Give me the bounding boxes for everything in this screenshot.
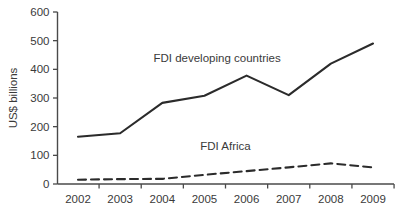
y-tick-label: 0 xyxy=(43,178,49,190)
x-tick-label: 2009 xyxy=(360,193,386,205)
y-tick-label: 300 xyxy=(30,92,49,104)
x-tick-label: 2002 xyxy=(65,193,91,205)
y-tick-label: 500 xyxy=(30,35,49,47)
x-tick-label: 2003 xyxy=(107,193,133,205)
y-tick-label: 600 xyxy=(30,6,49,18)
x-tick-label: 2004 xyxy=(149,193,175,205)
x-tick-label: 2005 xyxy=(192,193,218,205)
series-line-2 xyxy=(78,163,373,179)
y-tick-label: 200 xyxy=(30,121,49,133)
y-axis-title: US$ billions xyxy=(7,67,19,128)
x-tick-label: 2007 xyxy=(276,193,302,205)
chart-canvas: 0100200300400500600200220032004200520062… xyxy=(0,0,412,216)
fdi-line-chart: 0100200300400500600200220032004200520062… xyxy=(0,0,412,216)
y-tick-label: 100 xyxy=(30,149,49,161)
x-tick-label: 2006 xyxy=(234,193,260,205)
y-tick-label: 400 xyxy=(30,63,49,75)
series-annotation-1: FDI developing countries xyxy=(153,52,280,64)
series-annotation-2: FDI Africa xyxy=(200,140,251,152)
x-tick-label: 2008 xyxy=(318,193,344,205)
